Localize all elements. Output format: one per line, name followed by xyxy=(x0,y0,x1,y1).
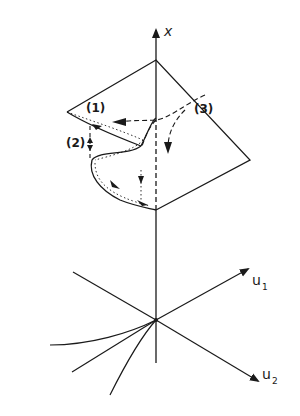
control-plane xyxy=(50,269,258,395)
svg-text:u: u xyxy=(262,366,271,382)
x-axis-label: x xyxy=(163,23,173,39)
label-path-2: (2) xyxy=(66,136,85,150)
arrow-path-3-down xyxy=(164,142,172,154)
arrow-path-3-left xyxy=(112,118,126,126)
arrow-vertical-drop xyxy=(138,176,144,184)
label-path-1: (1) xyxy=(86,101,105,115)
arrow-lower-sheet-2 xyxy=(137,200,148,206)
path-3-curve xyxy=(120,95,205,148)
cusp-catastrophe-diagram: x (1) (2) (3) xyxy=(0,0,300,416)
u1-axis-label: u 1 xyxy=(252,272,268,292)
u2-axis-label: u 2 xyxy=(262,366,278,386)
origin-point xyxy=(154,318,158,322)
svg-text:u: u xyxy=(252,272,261,288)
svg-text:1: 1 xyxy=(262,282,268,292)
arrow-lower-sheet xyxy=(110,180,120,189)
svg-text:2: 2 xyxy=(272,376,278,386)
label-path-3: (3) xyxy=(194,102,213,116)
equilibrium-surface xyxy=(67,60,250,210)
trajectory-dotted xyxy=(67,112,150,206)
